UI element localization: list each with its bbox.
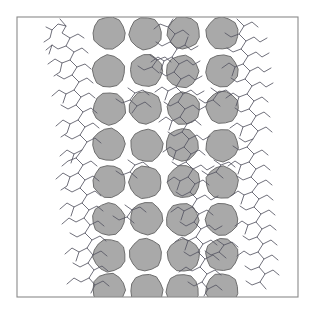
fiber-disk (93, 17, 125, 49)
figure-canvas (0, 0, 316, 317)
composite-micrograph-figure (0, 0, 316, 317)
figure-background (0, 0, 316, 317)
